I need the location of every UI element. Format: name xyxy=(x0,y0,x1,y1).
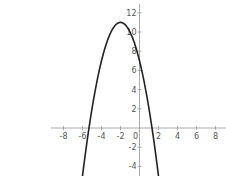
x-tick-label: 4 xyxy=(175,132,180,141)
x-tick-label: -6 xyxy=(79,132,87,141)
y-tick-label: 6 xyxy=(131,66,136,75)
parabola-curve xyxy=(83,22,159,176)
y-tick-label: 4 xyxy=(131,86,136,95)
y-tick-label: -2 xyxy=(129,143,137,152)
parabola-chart: -8-6-4-202468-4-224681012 xyxy=(0,0,226,187)
x-tick-label: 6 xyxy=(194,132,199,141)
chart-container: -8-6-4-202468-4-224681012 xyxy=(0,0,226,187)
x-tick-label: -4 xyxy=(98,132,106,141)
x-tick-label: 8 xyxy=(213,132,218,141)
x-tick-label: -2 xyxy=(117,132,125,141)
y-tick-label: 12 xyxy=(126,9,136,18)
x-tick-label: 2 xyxy=(156,132,161,141)
y-tick-label: -4 xyxy=(129,162,137,171)
y-tick-label: 2 xyxy=(131,105,136,114)
x-tick-label: -8 xyxy=(60,132,68,141)
x-tick-label: 0 xyxy=(133,132,138,141)
